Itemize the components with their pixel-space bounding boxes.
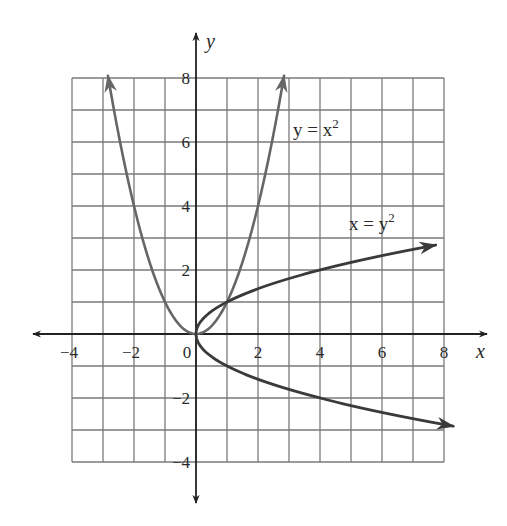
curve-label-y-equals-x-squared: y = x2 bbox=[293, 116, 339, 140]
y-tick-label: −4 bbox=[172, 453, 191, 472]
curves bbox=[108, 76, 453, 426]
y-tick-label: 2 bbox=[182, 261, 191, 280]
curve-label-superscript: 2 bbox=[332, 116, 339, 131]
chart-figure: −4−202468−4−22468 x y y = x2 x = y2 bbox=[0, 0, 507, 526]
x-tick-label: 8 bbox=[440, 343, 449, 362]
curve-label-main: y = x bbox=[293, 119, 333, 140]
y-tick-label: 4 bbox=[182, 197, 191, 216]
axes bbox=[33, 33, 487, 503]
x-tick-label: 0 bbox=[183, 343, 192, 362]
curve-label-x-equals-y-squared: x = y2 bbox=[349, 210, 395, 234]
curve-x-equals-y-squared bbox=[196, 245, 453, 426]
curve-label-main: x = y bbox=[349, 213, 389, 234]
curve-label-superscript: 2 bbox=[388, 210, 395, 225]
x-tick-label: −2 bbox=[122, 343, 140, 362]
x-tick-label: 6 bbox=[378, 343, 387, 362]
x-tick-label: 4 bbox=[316, 343, 325, 362]
y-axis-label: y bbox=[204, 30, 215, 53]
x-tick-label: −4 bbox=[60, 343, 79, 362]
x-tick-label: 2 bbox=[254, 343, 263, 362]
x-axis-label: x bbox=[475, 340, 485, 362]
y-tick-label: 8 bbox=[182, 69, 191, 88]
y-tick-label: 6 bbox=[182, 133, 191, 152]
y-tick-label: −2 bbox=[172, 389, 190, 408]
grid-lines bbox=[72, 78, 444, 462]
